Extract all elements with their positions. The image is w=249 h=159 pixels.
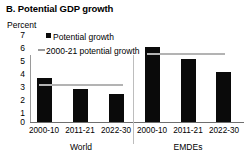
page-title: B. Potential GDP growth	[6, 3, 113, 14]
group-label-emdes: EMDEs	[133, 142, 243, 152]
bar-emdes-2011-21	[181, 59, 196, 122]
bar-emdes-2022-30	[216, 72, 231, 122]
legend-line-marker-icon	[38, 49, 45, 51]
bar-world-2011-21	[73, 89, 88, 122]
y-axis-tick-4: 4	[11, 70, 25, 79]
y-axis-unit-label: Percent	[7, 20, 36, 30]
reference-line-world	[39, 84, 123, 86]
chart-panel: B. Potential GDP growth Percent 7 6 5 4 …	[0, 0, 249, 159]
legend-square-marker-icon	[46, 33, 51, 38]
y-axis-tick-3: 3	[11, 83, 25, 92]
y-axis-tick-6: 6	[11, 44, 25, 53]
y-axis-line	[30, 55, 31, 123]
bar-emdes-2000-10	[145, 47, 160, 122]
y-axis-tick-2: 2	[11, 96, 25, 105]
group-label-world: World	[26, 142, 136, 152]
x-axis-tick-emdes-2022-30: 2022-30	[203, 126, 245, 136]
x-axis-line	[30, 122, 244, 123]
y-axis-tick-7: 7	[11, 31, 25, 40]
bar-world-2022-30	[109, 94, 124, 122]
legend-label-reference-line: 2000-21 potential growth	[46, 46, 140, 56]
legend-label-potential-growth: Potential growth	[53, 32, 114, 42]
y-axis-tick-5: 5	[11, 57, 25, 66]
legend-item-potential-growth: Potential growth	[46, 31, 114, 42]
legend-item-reference-line: 2000-21 potential growth	[38, 45, 140, 56]
reference-line-emdes	[147, 53, 225, 55]
